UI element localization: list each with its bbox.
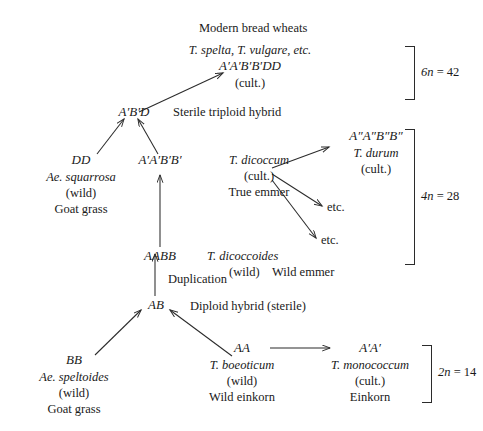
triploid-hybrid-note: Sterile triploid hybrid — [173, 104, 281, 120]
node-aabb: AABB — [130, 248, 190, 265]
arrow-bb-to-ab — [95, 310, 141, 355]
monococcum-status: (cult.) — [318, 373, 422, 389]
speltoides-species: Ae. speltoides — [14, 369, 134, 385]
hexaploid-genome: A′A′B′B′DD — [185, 58, 315, 75]
ploidy-hexaploid-value: = 42 — [434, 65, 460, 79]
ploidy-tetraploid-value: = 28 — [434, 189, 460, 203]
aabb-genome: AABB — [130, 248, 190, 265]
node-ab: AB — [132, 297, 180, 314]
squarrosa-genome: DD — [22, 152, 140, 169]
dicoccoides-common-name: Wild emmer — [272, 264, 334, 280]
boeoticum-species: T. boeoticum — [184, 357, 300, 373]
arrow-dd-to-triploid — [97, 119, 124, 154]
node-speltoides: BB Ae. speltoides (wild) Goat grass — [14, 352, 134, 417]
node-monococcum: A′A′ T. monococcum (cult.) Einkorn — [318, 340, 422, 405]
speltoides-status: (wild) — [14, 385, 134, 401]
hexaploid-species: T. spelta, T. vulgare, etc. — [185, 42, 315, 58]
dicoccoides-status: (wild) — [229, 264, 260, 280]
ploidy-label-hexaploid: 6n = 42 — [421, 65, 459, 80]
etc-lower-label: etc. — [321, 232, 339, 248]
bracket-hexaploid — [405, 46, 415, 100]
bracket-diploid — [422, 345, 432, 403]
ploidy-diploid-value: = 14 — [451, 365, 477, 379]
ab-note: Diploid hybrid (sterile) — [190, 298, 306, 314]
node-dicoccum: T. dicoccum (cult.) True emmer — [204, 152, 314, 200]
bracket-tetraploid — [405, 129, 415, 265]
boeoticum-common-name: Wild einkorn — [184, 389, 300, 405]
node-boeoticum: AA T. boeoticum (wild) Wild einkorn — [184, 340, 300, 405]
dicoccoides-species: T. dicoccoides — [207, 248, 278, 264]
arrow-tetraploid-to-triploid — [138, 119, 158, 154]
diagram-title: Modern bread wheats — [199, 20, 307, 36]
dicoccum-status: (cult.) — [204, 168, 314, 184]
node-triploid-hybrid-genome: A′B′D — [103, 104, 165, 121]
squarrosa-common-name: Goat grass — [22, 201, 140, 217]
ploidy-label-diploid: 2n = 14 — [438, 365, 476, 380]
etc-upper-label: etc. — [327, 199, 345, 215]
hexaploid-status: (cult.) — [185, 75, 315, 91]
tetraploid-primed-genome: A′A′B′B′ — [124, 152, 196, 169]
speltoides-genome: BB — [14, 352, 134, 369]
squarrosa-species: Ae. squarrosa — [22, 169, 140, 185]
squarrosa-status: (wild) — [22, 185, 140, 201]
ab-genome: AB — [132, 297, 180, 314]
wheat-evolution-diagram: Modern bread wheats T. spelta, T. vulgar… — [0, 0, 483, 431]
monococcum-common-name: Einkorn — [318, 389, 422, 405]
boeoticum-status: (wild) — [184, 373, 300, 389]
node-tetraploid-primed: A′A′B′B′ — [124, 152, 196, 169]
duplication-label: Duplication — [168, 271, 227, 287]
speltoides-common-name: Goat grass — [14, 401, 134, 417]
monococcum-genome: A′A′ — [318, 340, 422, 357]
triploid-hybrid-genome: A′B′D — [103, 104, 165, 121]
dicoccum-common-name: True emmer — [204, 184, 314, 200]
monococcum-species: T. monococcum — [318, 357, 422, 373]
ploidy-label-tetraploid: 4n = 28 — [421, 189, 459, 204]
node-hexaploid: T. spelta, T. vulgare, etc. A′A′B′B′DD (… — [185, 42, 315, 91]
node-squarrosa: DD Ae. squarrosa (wild) Goat grass — [22, 152, 140, 217]
dicoccum-species: T. dicoccum — [204, 152, 314, 168]
boeoticum-genome: AA — [184, 340, 300, 357]
